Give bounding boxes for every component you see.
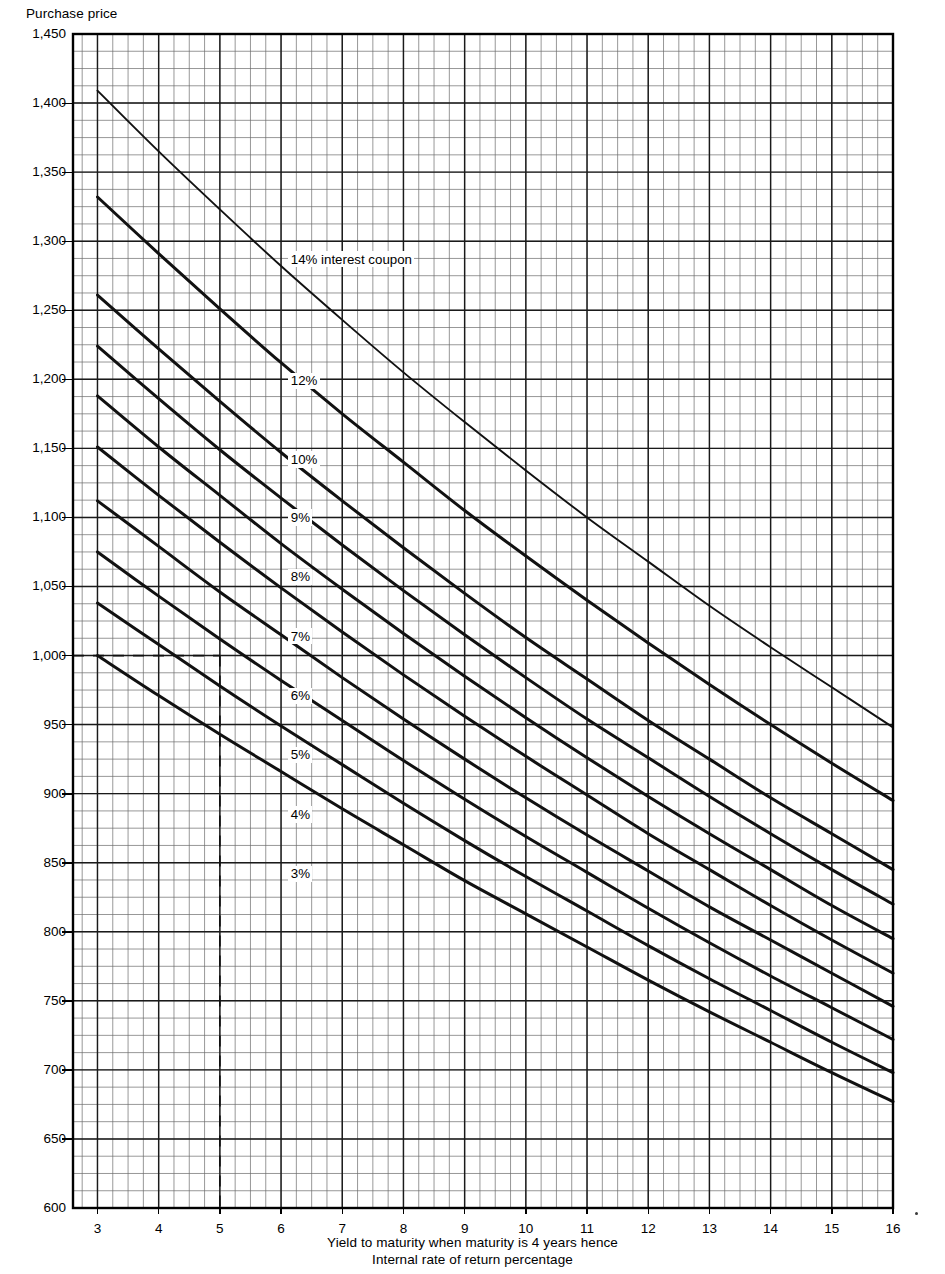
curve-label-10: 10% <box>288 451 320 467</box>
plot-canvas <box>0 0 945 1274</box>
curve-label-14: 14% interest coupon <box>288 251 414 267</box>
curve-label-3: 3% <box>288 866 312 882</box>
curve-label-9: 9% <box>288 509 312 525</box>
curve-label-12: 12% <box>288 373 320 389</box>
curve-label-5: 5% <box>288 747 312 763</box>
curve-label-8: 8% <box>288 569 312 585</box>
curve-label-7: 7% <box>288 628 312 644</box>
x-axis-title-line1: Yield to maturity when maturity is 4 yea… <box>0 1235 945 1250</box>
bond-price-yield-chart: Purchase price 6006507007508008509009501… <box>0 0 945 1274</box>
curve-label-4: 4% <box>288 806 312 822</box>
stray-mark <box>915 1212 918 1215</box>
curve-label-6: 6% <box>288 688 312 704</box>
x-axis-title-line2: Internal rate of return percentage <box>0 1252 945 1267</box>
